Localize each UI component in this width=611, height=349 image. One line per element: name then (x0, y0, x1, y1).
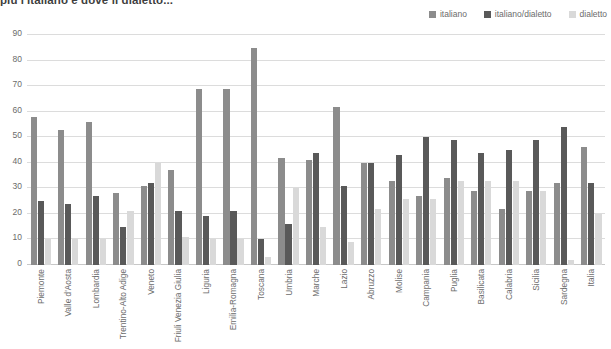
bar-italiano-dialetto-ValledAosta[interactable] (65, 204, 71, 265)
x-label-cell: Lazio (330, 267, 358, 349)
bar-italiano-Calabria[interactable] (499, 209, 505, 265)
legend-item-italiano[interactable]: italiano (429, 9, 467, 19)
bar-dialetto-Italia[interactable] (595, 214, 601, 265)
bar-italiano-TrentinoAltoAdige[interactable] (113, 193, 119, 265)
x-tick-label-Sicilia: Sicilia (531, 269, 541, 291)
bar-group (412, 35, 440, 265)
bar-italiano-dialetto-Campania[interactable] (423, 137, 429, 265)
bar-italiano-Lazio[interactable] (333, 107, 339, 265)
bar-italiano-dialetto-Piemonte[interactable] (38, 201, 44, 265)
x-label-cell: Marche (302, 267, 330, 349)
x-tick-label-Lazio: Lazio (339, 269, 349, 289)
bar-italiano-Molise[interactable] (389, 181, 395, 265)
bar-dialetto-Campania[interactable] (430, 199, 436, 265)
bar-dialetto-ValledAosta[interactable] (72, 239, 78, 265)
x-label-cell: Emilia-Romagna (220, 267, 248, 349)
bar-italiano-dialetto-Puglia[interactable] (451, 140, 457, 265)
bar-italiano-EmiliaRomagna[interactable] (223, 89, 229, 265)
x-tick-label-Molise: Molise (394, 269, 404, 293)
bar-dialetto-Sardegna[interactable] (568, 260, 574, 265)
bar-italiano-dialetto-Calabria[interactable] (506, 150, 512, 265)
bar-italiano-Lombardia[interactable] (86, 122, 92, 265)
x-label-cell: Liguria (192, 267, 220, 349)
bar-dialetto-Calabria[interactable] (513, 181, 519, 265)
bar-group (55, 35, 83, 265)
bar-dialetto-Veneto[interactable] (155, 163, 161, 265)
x-tick-label-Umbria: Umbria (284, 269, 294, 296)
bar-group (192, 35, 220, 265)
bar-dialetto-FriuliVeneziaGiulia[interactable] (182, 237, 188, 265)
bar-italiano-dialetto-Liguria[interactable] (203, 216, 209, 265)
bar-dialetto-Liguria[interactable] (210, 239, 216, 265)
bar-italiano-dialetto-Lombardia[interactable] (93, 196, 99, 265)
bar-dialetto-Molise[interactable] (403, 199, 409, 265)
bar-dialetto-Abruzzo[interactable] (375, 209, 381, 265)
bar-groups (27, 35, 605, 265)
y-tick-label-80: 80 (0, 54, 22, 64)
bar-italiano-Marche[interactable] (306, 160, 312, 265)
bar-dialetto-Lazio[interactable] (348, 242, 354, 265)
bar-italiano-dialetto-Lazio[interactable] (341, 186, 347, 265)
bar-dialetto-Sicilia[interactable] (540, 191, 546, 265)
x-label-cell: Veneto (137, 267, 165, 349)
x-tick-label-Abruzzo: Abruzzo (366, 269, 376, 299)
legend-item-italiano-dialetto[interactable]: italiano/dialetto (484, 9, 552, 19)
bar-group (165, 35, 193, 265)
bar-italiano-dialetto-Umbria[interactable] (285, 224, 291, 265)
x-label-cell: Puglia (440, 267, 468, 349)
bar-italiano-Abruzzo[interactable] (361, 163, 367, 265)
bar-italiano-dialetto-Basilicata[interactable] (478, 153, 484, 265)
bar-italiano-Basilicata[interactable] (471, 191, 477, 265)
bar-group (550, 35, 578, 265)
bar-italiano-dialetto-TrentinoAltoAdige[interactable] (120, 227, 126, 265)
x-tick-label-EmiliaRomagna: Emilia-Romagna (228, 269, 238, 330)
bar-group (385, 35, 413, 265)
bar-group (495, 35, 523, 265)
bar-group (468, 35, 496, 265)
bar-dialetto-TrentinoAltoAdige[interactable] (127, 211, 133, 265)
bar-italiano-Toscana[interactable] (251, 48, 257, 265)
bar-italiano-dialetto-Veneto[interactable] (148, 183, 154, 265)
bar-italiano-Puglia[interactable] (444, 178, 450, 265)
legend-label-italiano-dialetto: italiano/dialetto (495, 9, 552, 19)
bar-dialetto-Marche[interactable] (320, 227, 326, 265)
bar-italiano-Campania[interactable] (416, 196, 422, 265)
bar-dialetto-Basilicata[interactable] (485, 181, 491, 265)
bar-italiano-dialetto-Sicilia[interactable] (533, 140, 539, 265)
bar-dialetto-Toscana[interactable] (265, 257, 271, 265)
bar-italiano-dialetto-Toscana[interactable] (258, 239, 264, 265)
bar-italiano-ValledAosta[interactable] (58, 130, 64, 265)
bar-dialetto-Puglia[interactable] (458, 181, 464, 265)
y-tick-label-50: 50 (0, 130, 22, 140)
x-tick-label-Marche: Marche (311, 269, 321, 297)
bar-italiano-Umbria[interactable] (278, 158, 284, 265)
bar-dialetto-Piemonte[interactable] (45, 239, 51, 265)
bar-italiano-dialetto-EmiliaRomagna[interactable] (230, 211, 236, 265)
bar-italiano-dialetto-FriuliVeneziaGiulia[interactable] (175, 211, 181, 265)
x-tick-label-Italia: Italia (586, 269, 596, 287)
bar-italiano-FriuliVeneziaGiulia[interactable] (168, 170, 174, 265)
bar-italiano-Sardegna[interactable] (554, 183, 560, 265)
bar-italiano-dialetto-Italia[interactable] (588, 183, 594, 265)
bar-italiano-dialetto-Molise[interactable] (396, 155, 402, 265)
bar-group (110, 35, 138, 265)
x-tick-label-TrentinoAltoAdige: Trentino-Alto Adige (118, 269, 128, 339)
bar-group (137, 35, 165, 265)
bar-dialetto-Umbria[interactable] (293, 188, 299, 265)
bar-dialetto-EmiliaRomagna[interactable] (237, 239, 243, 265)
y-tick-label-10: 10 (0, 232, 22, 242)
bar-italiano-dialetto-Abruzzo[interactable] (368, 163, 374, 265)
x-tick-label-Campania: Campania (421, 269, 431, 307)
bar-italiano-Italia[interactable] (581, 147, 587, 265)
x-tick-label-Basilicata: Basilicata (476, 269, 486, 305)
legend-swatch-dialetto (569, 11, 576, 18)
bar-italiano-dialetto-Marche[interactable] (313, 153, 319, 265)
bar-italiano-Liguria[interactable] (196, 89, 202, 265)
bar-italiano-Sicilia[interactable] (526, 191, 532, 265)
bar-dialetto-Lombardia[interactable] (100, 239, 106, 265)
bar-italiano-dialetto-Sardegna[interactable] (561, 127, 567, 265)
legend-item-dialetto[interactable]: dialetto (569, 9, 607, 19)
x-label-cell: Molise (385, 267, 413, 349)
bar-italiano-Piemonte[interactable] (31, 117, 37, 265)
bar-italiano-Veneto[interactable] (141, 186, 147, 265)
